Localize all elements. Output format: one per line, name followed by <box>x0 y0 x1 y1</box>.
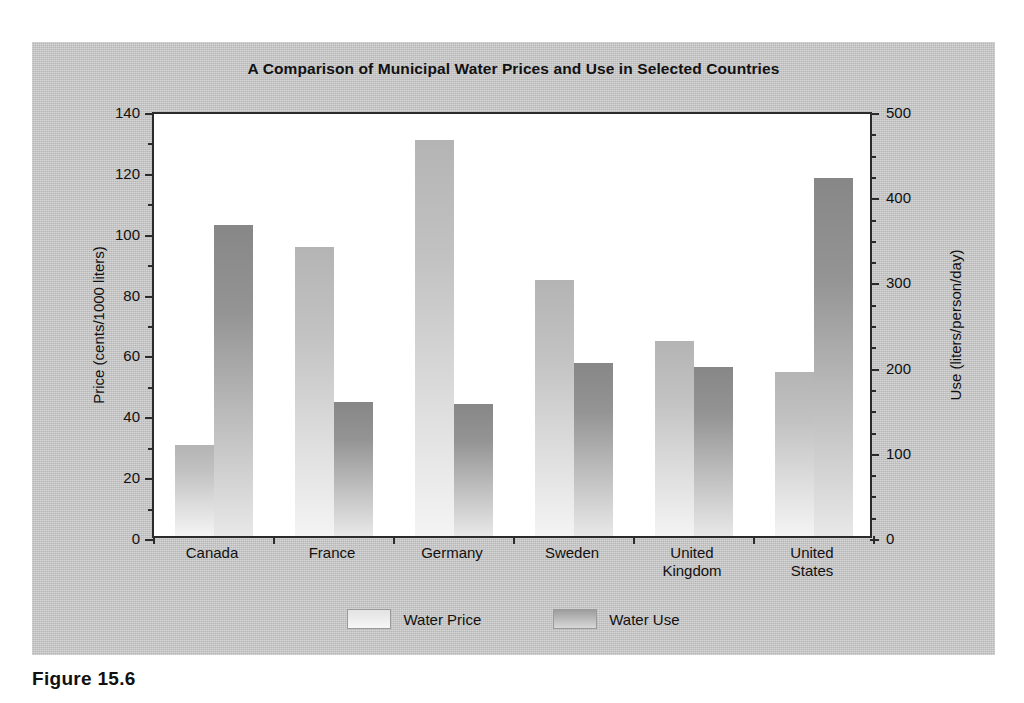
left-axis-label-100: 100 <box>115 225 140 242</box>
x-tick-2 <box>393 536 395 544</box>
left-tick-30 <box>148 448 154 450</box>
x-tick-6 <box>873 536 875 544</box>
x-category-line: United <box>752 544 872 562</box>
left-tick-20 <box>145 478 154 480</box>
left-tick-40 <box>145 417 154 419</box>
x-category-line: States <box>752 562 872 580</box>
bar-water-price-united-kingdom <box>655 341 694 536</box>
right-tick-25 <box>870 518 876 520</box>
right-tick-475 <box>870 134 876 136</box>
left-tick-60 <box>145 356 154 358</box>
x-category-line: Kingdom <box>632 562 752 580</box>
x-tick-0 <box>153 536 155 544</box>
right-tick-325 <box>870 262 876 264</box>
left-axis-label-80: 80 <box>123 286 140 303</box>
left-axis-title: Price (cents/1000 liters) <box>90 112 114 538</box>
bar-water-price-france <box>295 247 334 536</box>
left-tick-80 <box>145 296 154 298</box>
left-axis-label-60: 60 <box>123 347 140 364</box>
left-tick-70 <box>148 326 154 328</box>
right-tick-375 <box>870 220 876 222</box>
bar-water-use-canada <box>214 225 253 536</box>
right-tick-75 <box>870 475 876 477</box>
right-tick-150 <box>870 411 876 413</box>
right-axis-title: Use (liters/person/day) <box>947 112 971 538</box>
right-tick-300 <box>870 283 879 285</box>
right-axis-label-200: 200 <box>886 359 911 376</box>
bar-water-use-united-kingdom <box>694 367 733 536</box>
x-category-label-united-kingdom: UnitedKingdom <box>632 544 752 581</box>
right-tick-100 <box>870 454 879 456</box>
legend-item-water-use: Water Use <box>553 609 679 629</box>
bar-water-price-canada <box>175 445 214 536</box>
x-category-label-france: France <box>272 544 392 562</box>
right-tick-175 <box>870 390 876 392</box>
left-tick-50 <box>148 387 154 389</box>
left-axis-label-0: 0 <box>132 530 140 547</box>
bar-water-use-france <box>334 402 373 536</box>
bar-water-use-germany <box>454 404 493 536</box>
left-tick-130 <box>148 143 154 145</box>
bar-water-price-united-states <box>775 372 814 536</box>
right-tick-250 <box>870 326 876 328</box>
x-category-line: United <box>632 544 752 562</box>
bar-water-use-united-states <box>814 178 853 536</box>
right-tick-400 <box>870 198 879 200</box>
right-axis-label-0: 0 <box>886 530 894 547</box>
right-tick-225 <box>870 347 876 349</box>
bar-water-price-germany <box>415 140 454 536</box>
right-axis-label-300: 300 <box>886 274 911 291</box>
left-tick-10 <box>148 509 154 511</box>
right-axis-label-500: 500 <box>886 104 911 121</box>
legend-label-water-use: Water Use <box>609 611 679 628</box>
legend-label-water-price: Water Price <box>403 611 481 628</box>
legend-swatch-water-price <box>347 609 391 629</box>
left-axis-label-140: 140 <box>115 104 140 121</box>
right-axis-label-100: 100 <box>886 444 911 461</box>
x-category-line: France <box>272 544 392 562</box>
x-category-label-canada: Canada <box>152 544 272 562</box>
left-tick-90 <box>148 265 154 267</box>
figure-panel: A Comparison of Municipal Water Prices a… <box>32 42 995 655</box>
left-tick-140 <box>145 113 154 115</box>
x-category-label-united-states: UnitedStates <box>752 544 872 581</box>
left-tick-100 <box>145 235 154 237</box>
x-category-label-sweden: Sweden <box>512 544 632 562</box>
right-tick-350 <box>870 241 876 243</box>
figure-caption: Figure 15.6 <box>32 668 136 690</box>
legend-item-water-price: Water Price <box>347 609 481 629</box>
left-axis-label-120: 120 <box>115 164 140 181</box>
chart-title: A Comparison of Municipal Water Prices a… <box>32 60 995 78</box>
right-tick-450 <box>870 156 876 158</box>
bar-water-use-sweden <box>574 363 613 536</box>
right-tick-500 <box>870 113 879 115</box>
right-axis-label-400: 400 <box>886 189 911 206</box>
right-tick-125 <box>870 433 876 435</box>
chart-legend: Water Price Water Use <box>32 609 995 629</box>
x-tick-5 <box>753 536 755 544</box>
bars-layer <box>154 114 870 536</box>
x-tick-1 <box>273 536 275 544</box>
left-tick-110 <box>148 204 154 206</box>
x-category-line: Canada <box>152 544 272 562</box>
legend-swatch-water-use <box>553 609 597 629</box>
right-tick-425 <box>870 177 876 179</box>
right-tick-200 <box>870 369 879 371</box>
left-axis-label-40: 40 <box>123 408 140 425</box>
left-tick-120 <box>145 174 154 176</box>
bar-water-price-sweden <box>535 280 574 536</box>
left-axis-label-20: 20 <box>123 469 140 486</box>
right-tick-275 <box>870 305 876 307</box>
plot-area <box>152 112 872 538</box>
x-category-label-germany: Germany <box>392 544 512 562</box>
right-tick-50 <box>870 496 876 498</box>
x-tick-4 <box>633 536 635 544</box>
x-tick-3 <box>513 536 515 544</box>
x-category-line: Germany <box>392 544 512 562</box>
x-category-line: Sweden <box>512 544 632 562</box>
